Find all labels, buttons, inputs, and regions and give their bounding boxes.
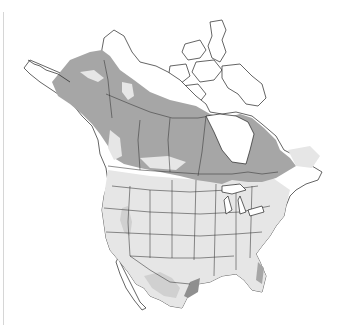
range-map <box>0 0 358 325</box>
